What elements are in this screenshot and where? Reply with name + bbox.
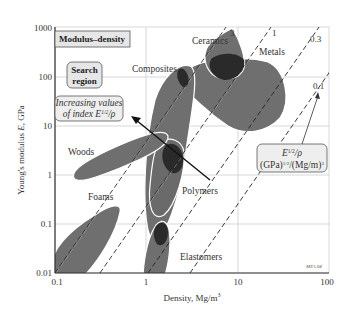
label-polymers: Polymers [182, 186, 218, 196]
label-elastomers: Elastomers [180, 252, 223, 262]
y-axis-title: Young's modulus E, GPa [16, 105, 26, 195]
x-axis-title: Density, Mg/m3 [164, 292, 221, 303]
index-label-line-2: (GPa)1/2/(Mg/m)3 [260, 160, 324, 171]
label-woods: Woods [68, 147, 94, 157]
search-region-label-1: Search [71, 65, 97, 75]
x-tick-labels: 0.1 1 10 100 [51, 277, 334, 287]
xtick-1: 1 [144, 277, 149, 287]
increasing-values-label-2: of index E1/2/ρ [63, 109, 116, 119]
xtick-100: 100 [320, 277, 334, 287]
guide-label-0.1: 0.1 [313, 81, 324, 91]
xtick-10: 10 [234, 277, 244, 287]
ytick-100: 100 [39, 72, 53, 82]
xtick-0.1: 0.1 [51, 277, 62, 287]
guide-label-1: 1 [272, 28, 277, 38]
ytick-10: 10 [43, 121, 53, 131]
ytick-1: 1 [48, 170, 53, 180]
label-composites: Composites [132, 64, 177, 74]
ytick-0.1: 0.1 [41, 219, 52, 229]
label-metals: Metals [259, 47, 285, 57]
credit-label: MFA 04 [305, 264, 322, 269]
increasing-values-label-1: Increasing values [55, 98, 123, 108]
ytick-1000: 1000 [34, 23, 53, 33]
guide-label-0.3: 0.3 [310, 34, 322, 44]
ytick-0.01: 0.01 [36, 268, 52, 278]
label-ceramics: Ceramics [192, 36, 228, 46]
search-region-label-2: region [72, 76, 96, 86]
label-foams: Foams [88, 192, 114, 202]
guide-label-3: 3 [230, 28, 235, 38]
y-tick-labels: 1000 100 10 1 0.1 0.01 [34, 23, 53, 278]
modulus-density-chart: 1000 100 10 1 0.1 0.01 0.1 1 10 100 Dens… [0, 0, 348, 312]
chart-title: Modulus–density [59, 34, 126, 44]
